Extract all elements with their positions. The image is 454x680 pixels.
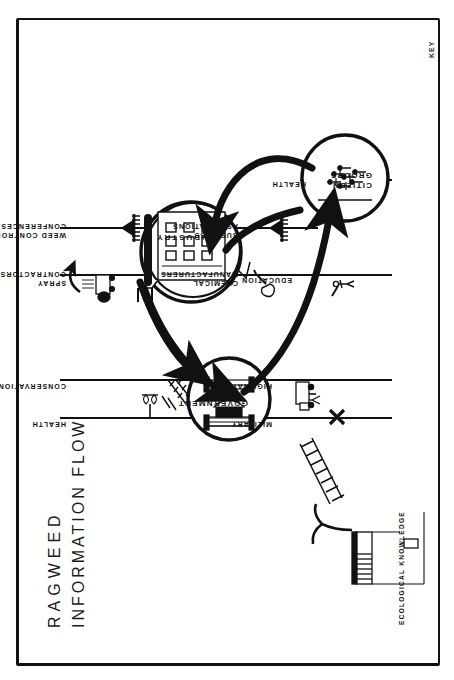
rotation-wrapper: RAGWEED INFORMATION FLOW ECOLOGICAL KNOW… xyxy=(0,0,454,680)
channel-label-highways: HIGHWAYS xyxy=(226,383,272,390)
node-label-citizen-groups: CITIZEN GROUPS xyxy=(330,170,372,190)
channel-label-chemical-manufacturers: CHEMICAL MANUFACTURERS xyxy=(160,270,238,288)
spray-contractors-line-2: CONTRACTORS xyxy=(0,271,66,278)
business-associations-line-2: ASSOCIATIONS xyxy=(172,223,238,230)
chemical-manufacturers-line-2: MANUFACTURERS xyxy=(160,271,238,278)
ecological-knowledge-icon xyxy=(313,504,424,584)
channel-label-weed-control-conferences: WEED CONTROL CONFERENCES xyxy=(0,222,66,240)
caduceus-icon-top xyxy=(142,395,158,418)
channel-label-spray-contractors: SPRAY CONTRACTORS xyxy=(0,270,66,288)
cross-mark-annotation xyxy=(330,410,344,424)
node-label-industry: INDUSTRY xyxy=(155,232,212,242)
spray-truck-icon xyxy=(70,268,114,302)
diagram-artwork xyxy=(0,0,454,680)
citizen-groups-line-1: CITIZEN xyxy=(332,181,372,190)
channel-label-conservation-science: CONSERVATION & SCIENCE xyxy=(0,383,66,390)
hatched-ladder-icon xyxy=(300,438,344,504)
weed-conferences-line-2: CONFERENCES xyxy=(0,223,66,230)
channel-label-military: MILITARY xyxy=(231,421,272,428)
truck-icon xyxy=(296,382,314,410)
diagram-sheet: RAGWEED INFORMATION FLOW ECOLOGICAL KNOW… xyxy=(0,0,454,680)
channel-label-education: EDUCATION xyxy=(241,277,292,284)
chemical-manufacturers-line-1: CHEMICAL xyxy=(192,280,238,287)
scanned-page: RAGWEED INFORMATION FLOW ECOLOGICAL KNOW… xyxy=(0,0,454,680)
weed-conferences-line-1: WEED CONTROL xyxy=(0,232,66,239)
channel-label-health-top: HEALTH xyxy=(32,421,66,428)
teacher-icon xyxy=(332,280,354,296)
corner-key-mark: KEY xyxy=(428,41,435,58)
node-label-government: GOVERNMENT xyxy=(178,398,248,408)
audience-icon-conferences xyxy=(122,215,140,242)
citizen-groups-line-2: GROUPS xyxy=(330,171,372,180)
spray-contractors-line-1: SPRAY xyxy=(37,280,66,287)
channel-label-health-bottom: HEALTH xyxy=(272,181,306,188)
